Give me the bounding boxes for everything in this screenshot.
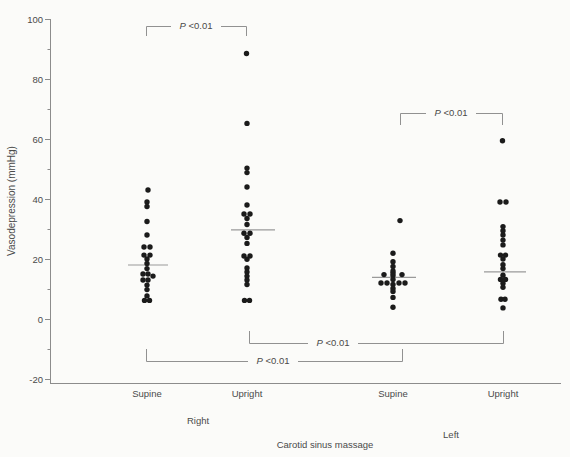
data-point: [390, 277, 395, 282]
data-point: [144, 287, 149, 292]
data-point: [144, 204, 149, 209]
data-point: [500, 232, 505, 237]
data-point: [244, 51, 249, 56]
x-category-label: Supine: [132, 388, 162, 399]
p-value-label: P <0.01: [256, 355, 289, 366]
data-point: [500, 237, 505, 242]
data-point: [390, 295, 395, 300]
data-point: [244, 202, 249, 207]
data-point: [150, 273, 155, 278]
y-tick-label: 20: [32, 254, 43, 265]
y-tick-label: 100: [27, 14, 43, 25]
data-point: [144, 219, 149, 224]
vasodepression-scatter-chart: 100806040200-20Vasodepression (mmHg)Supi…: [0, 0, 570, 457]
data-point: [244, 235, 249, 240]
data-point: [144, 232, 149, 237]
data-point: [145, 277, 150, 282]
data-point: [244, 170, 249, 175]
data-point: [399, 272, 404, 277]
data-point: [247, 211, 252, 216]
data-point: [497, 199, 502, 204]
x-axis-label: Carotid sinus massage: [277, 439, 374, 450]
data-point: [500, 305, 505, 310]
x-category-label: Supine: [378, 388, 408, 399]
data-point: [140, 271, 145, 276]
y-tick-label: 60: [32, 134, 43, 145]
data-point: [390, 305, 395, 310]
data-point: [384, 280, 389, 285]
significance-bracket: [250, 331, 504, 344]
data-point: [500, 285, 505, 290]
data-point: [142, 298, 147, 303]
data-point: [244, 282, 249, 287]
data-point: [381, 272, 386, 277]
data-point: [390, 289, 395, 294]
data-point: [244, 222, 249, 227]
data-point: [397, 218, 402, 223]
y-tick-label: 40: [32, 194, 43, 205]
x-category-label: Upright: [232, 388, 263, 399]
y-axis-label: Vasodepression (mmHg): [6, 146, 17, 256]
data-point: [242, 298, 247, 303]
data-point: [244, 257, 249, 262]
data-point: [500, 138, 505, 143]
data-point: [503, 199, 508, 204]
data-point: [247, 298, 252, 303]
data-point: [244, 216, 249, 221]
data-point: [144, 266, 149, 271]
y-tick-label: 0: [38, 314, 43, 325]
data-point: [145, 271, 150, 276]
side-group-label: Left: [443, 429, 459, 440]
x-category-label: Upright: [488, 388, 519, 399]
y-tick-label: -20: [29, 374, 43, 385]
data-point: [396, 280, 401, 285]
data-point: [244, 121, 249, 126]
p-value-label: P <0.01: [316, 337, 349, 348]
data-point: [241, 211, 246, 216]
figure-container: 100806040200-20Vasodepression (mmHg)Supi…: [0, 0, 570, 457]
p-value-label: P <0.01: [179, 20, 212, 31]
data-point: [402, 280, 407, 285]
y-tick-label: 80: [32, 74, 43, 85]
data-point: [144, 261, 149, 266]
p-value-label: P <0.01: [434, 107, 467, 118]
data-point: [390, 251, 395, 256]
data-point: [140, 277, 145, 282]
data-point: [145, 187, 150, 192]
data-point: [147, 244, 152, 249]
data-point: [500, 256, 505, 261]
side-group-label: Right: [187, 415, 210, 426]
data-point: [147, 298, 152, 303]
data-point: [244, 241, 249, 246]
data-point: [390, 259, 395, 264]
data-point: [141, 244, 146, 249]
data-point: [502, 297, 507, 302]
data-point: [244, 184, 249, 189]
data-point: [378, 280, 383, 285]
data-point: [500, 242, 505, 247]
data-point: [500, 266, 505, 271]
